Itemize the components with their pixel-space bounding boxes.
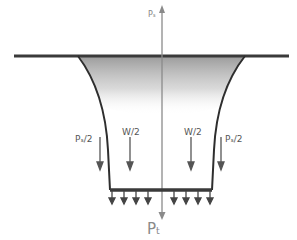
- right-weight-label: W/2: [184, 127, 202, 137]
- axis-down-arrow-icon: [159, 212, 166, 220]
- left-weight-label: W/2: [122, 127, 140, 137]
- left-side-force-label: Pₛ/2: [75, 134, 93, 144]
- right-side-force-label: Pₛ/2: [225, 134, 243, 144]
- force-arrows: [97, 137, 224, 170]
- top-axis-label: Pₛ: [148, 10, 156, 19]
- axis-up-arrow-icon: [159, 5, 165, 13]
- bottom-axis-label: Pₜ: [147, 220, 160, 238]
- base-load-arrows: [109, 191, 213, 204]
- pile-load-diagram: Pₛ Pₛ/2 W/2 W/2 Pₛ/2 Pₜ: [0, 0, 297, 240]
